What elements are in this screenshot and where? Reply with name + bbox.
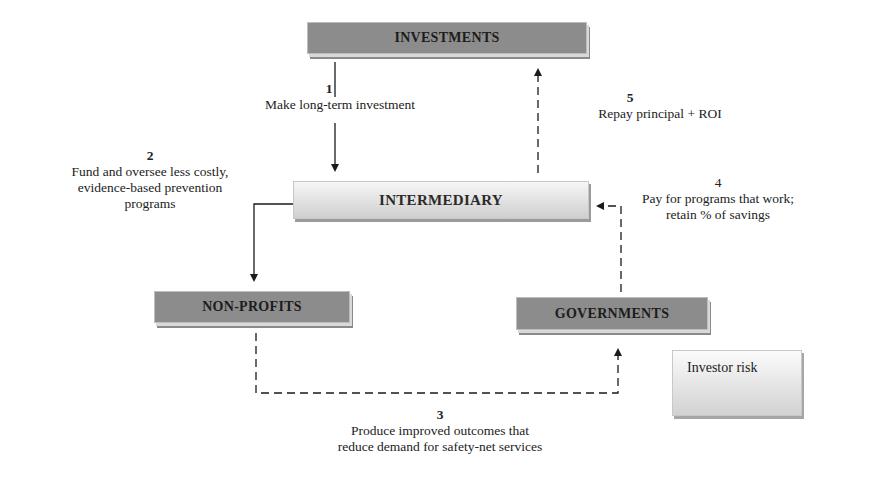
step-4-number: 4 (618, 175, 818, 191)
step-4-text-line-1: Pay for programs that work; (618, 191, 818, 207)
step-1-number: 1 (128, 81, 530, 97)
node-intermediary: INTERMEDIARY (293, 181, 589, 219)
node-investments: INVESTMENTS (307, 22, 587, 54)
step-5-label: 5 (570, 90, 690, 106)
node-non-profits-label: NON-PROFITS (202, 299, 302, 315)
step-2-text-line-2: evidence-based prevention (0, 180, 300, 196)
arrow-outcomes (256, 333, 618, 393)
step-3-number: 3 (230, 407, 650, 423)
step-1-text: Make long-term investment (265, 97, 415, 112)
node-governments: GOVERNMENTS (516, 297, 708, 330)
step-2-label: 2 Fund and oversee less costly, evidence… (0, 148, 300, 212)
node-non-profits: NON-PROFITS (154, 291, 350, 323)
node-governments-label: GOVERNMENTS (555, 306, 670, 322)
node-investments-label: INVESTMENTS (394, 30, 499, 46)
step-3-text-line-2: reduce demand for safety-net services (230, 439, 650, 455)
arrow-fund-programs (254, 204, 293, 280)
legend-label: Investor risk (687, 360, 757, 376)
step-2-text-line-3: programs (0, 196, 300, 212)
step-5-text: Repay principal + ROI (598, 106, 721, 121)
step-2-number: 2 (0, 148, 300, 164)
step-3-label: 3 Produce improved outcomes that reduce … (230, 407, 650, 455)
step-5-text-wrap: Repay principal + ROI (550, 106, 770, 122)
step-1-label: 1 Make long-term investment (150, 81, 530, 113)
step-4-text-line-2: retain % of savings (618, 207, 818, 223)
step-5-number: 5 (570, 90, 690, 106)
legend-box: Investor risk (672, 350, 802, 416)
step-4-label: 4 Pay for programs that work; retain % o… (618, 175, 818, 223)
step-2-text-line-1: Fund and oversee less costly, (0, 164, 300, 180)
step-3-text-line-1: Produce improved outcomes that (230, 423, 650, 439)
node-intermediary-label: INTERMEDIARY (379, 192, 503, 209)
